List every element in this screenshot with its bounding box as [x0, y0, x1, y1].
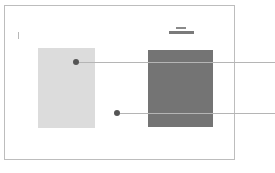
diagram-canvas	[0, 0, 275, 173]
dash-icon-top	[176, 27, 186, 29]
light-gray-box	[38, 48, 95, 128]
dash-icon-bar	[169, 31, 194, 34]
callout-leader-1	[79, 62, 275, 63]
dash-icon	[169, 27, 194, 37]
callout-leader-2	[120, 113, 275, 114]
tick-mark-icon	[18, 32, 19, 39]
